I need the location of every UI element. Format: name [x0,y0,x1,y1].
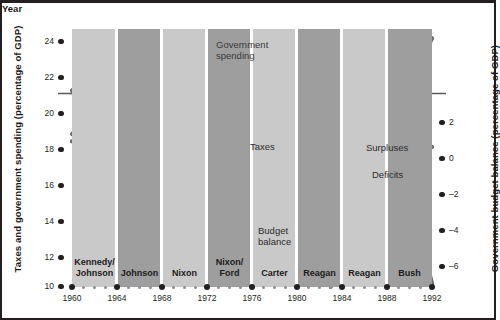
x-tick-dot-minor [397,286,400,289]
x-tick-label: 1980 [280,293,314,303]
x-tick-label: 1976 [235,293,269,303]
y-tick-right-0: 0 [449,153,475,163]
label-budget-balance-line2: balance [258,236,291,247]
y-tick-marker-right-2 [439,120,445,126]
x-tick-dot-minor [262,286,265,289]
x-tick-dot-minor [228,286,231,289]
label-government-spending-line1: Government [216,39,268,50]
band-label-nixon-ford: Nixon/ Ford [204,257,255,279]
band-separator [295,29,298,287]
plot-area: Government spending Taxes Surpluses Defi… [72,29,432,287]
band-label-carter: Carter [249,268,300,279]
band-label-nixon: Nixon [159,268,210,279]
band-label-line1: Nixon/ [216,257,244,267]
band-separator [115,29,118,287]
band-label-reagan-1: Reagan [294,268,345,279]
x-tick-dot-minor [352,286,355,289]
x-tick-dot-minor [183,286,186,289]
band-separator [160,29,163,287]
y-tick-right-2: 2 [449,117,475,127]
band-label-line1: Kennedy/ [74,257,115,267]
x-tick-dot-major [384,284,390,290]
y-tick-marker-left-10 [58,284,64,290]
x-tick-label: 1972 [190,293,224,303]
band-label-reagan-2: Reagan [339,268,390,279]
label-deficits: Deficits [372,169,403,180]
band-reagan-2 [342,29,387,287]
left-axis-title: Taxes and government spending (percentag… [12,41,23,273]
y-tick-right-minus6: –6 [449,261,475,271]
y-tick-left-12: 12 [32,252,54,262]
band-label-kennedy-johnson: Kennedy/ Johnson [69,257,120,279]
y-tick-left-10: 10 [32,281,54,291]
band-bush [387,29,432,287]
band-nixon [162,29,207,287]
x-tick-dot-minor [82,286,85,289]
x-tick-dot-minor [239,286,242,289]
y-tick-marker-left-18 [58,147,64,153]
x-tick-dot-minor [374,286,377,289]
x-tick-label: 1968 [145,293,179,303]
x-tick-dot-minor [138,286,141,289]
band-kennedy-johnson [72,29,117,287]
x-tick-dot-major [69,284,75,290]
label-government-spending-line2: spending [216,50,255,61]
y-tick-marker-right-minus6 [439,264,445,270]
x-tick-dot-minor [307,286,310,289]
x-tick-label: 1992 [415,293,449,303]
label-taxes: Taxes [250,141,275,152]
y-tick-left-14: 14 [32,216,54,226]
y-tick-left-20: 20 [32,108,54,118]
band-separator [340,29,343,287]
y-tick-left-16: 16 [32,180,54,190]
band-separator [385,29,388,287]
y-tick-left-18: 18 [32,144,54,154]
band-label-line2: Johnson [76,268,114,278]
y-tick-left-22: 22 [32,72,54,82]
x-tick-dot-minor [104,286,107,289]
band-separator [205,29,208,287]
y-tick-left-24: 24 [32,36,54,46]
y-tick-marker-left-14 [58,219,64,225]
band-label-bush: Bush [384,268,435,279]
band-nixon-ford [207,29,252,287]
y-tick-right-minus2: –2 [449,189,475,199]
x-tick-dot-minor [284,286,287,289]
x-tick-dot-minor [318,286,321,289]
label-government-spending: Government spending [216,39,268,61]
x-tick-dot-major [114,284,120,290]
x-tick-label: 1964 [100,293,134,303]
x-tick-dot-minor [408,286,411,289]
x-tick-dot-minor [127,286,130,289]
band-carter [252,29,297,287]
x-tick-label: 1988 [370,293,404,303]
label-budget-balance-line1: Budget [258,225,288,236]
x-tick-dot-minor [363,286,366,289]
x-tick-dot-minor [172,286,175,289]
x-tick-dot-minor [419,286,422,289]
x-tick-dot-minor [93,286,96,289]
band-johnson [117,29,162,287]
x-tick-dot-major [249,284,255,290]
x-tick-dot-minor [217,286,220,289]
y-tick-marker-left-12 [58,255,64,261]
y-tick-marker-right-minus2 [439,192,445,198]
band-label-johnson: Johnson [114,268,165,279]
x-tick-dot-major [339,284,345,290]
y-tick-marker-left-22 [58,75,64,81]
y-tick-marker-right-minus4 [439,228,445,234]
x-tick-dot-major [294,284,300,290]
x-tick-dot-minor [273,286,276,289]
y-tick-marker-left-24 [58,39,64,45]
x-tick-dot-minor [329,286,332,289]
band-reagan-1 [297,29,342,287]
label-surpluses: Surpluses [366,142,408,153]
x-tick-label: 1984 [325,293,359,303]
band-separator [250,29,253,287]
y-tick-marker-right-0 [439,156,445,162]
x-tick-dot-major [159,284,165,290]
x-tick-dot-major [204,284,210,290]
x-tick-dot-minor [194,286,197,289]
x-tick-dot-major [429,284,435,290]
